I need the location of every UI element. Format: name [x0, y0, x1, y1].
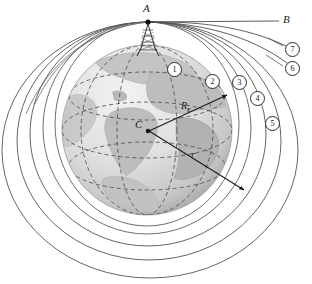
trajectory-label-1: 1	[167, 62, 182, 77]
trajectory-label-7: 7	[285, 42, 300, 57]
earth-radius-subscript: E	[187, 106, 191, 114]
callout-leader-group	[266, 38, 283, 66]
horizontal-launch-line	[148, 21, 279, 22]
orbit-radius-label: r	[191, 150, 195, 160]
leader-line-6	[266, 55, 283, 66]
orbit-diagram-figure: A B C RE r 1 2 3 4 5 6 7	[0, 0, 312, 284]
point-label-C: C	[135, 119, 142, 130]
trajectory-label-4: 4	[250, 91, 265, 106]
point-label-A: A	[143, 3, 150, 14]
leader-line-7	[268, 38, 283, 46]
point-label-B: B	[283, 14, 290, 25]
earth-radius-label: RE	[181, 101, 191, 114]
diagram-canvas	[0, 0, 312, 284]
trajectory-label-2: 2	[205, 74, 220, 89]
point-A-dot	[145, 19, 150, 24]
point-C-dot	[146, 129, 150, 133]
trajectory-label-6: 6	[285, 61, 300, 76]
trajectory-label-3: 3	[232, 75, 247, 90]
trajectory-label-5: 5	[265, 116, 280, 131]
